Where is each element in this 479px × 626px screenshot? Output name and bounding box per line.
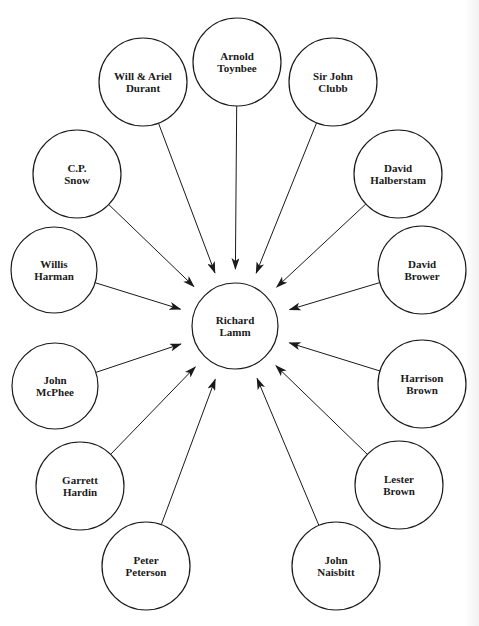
node-label: Hardin <box>63 486 97 498</box>
node-label: C.P. <box>67 162 86 174</box>
node-label: Harrison <box>401 372 444 384</box>
influence-diagram: ArnoldToynbeeWill & ArielDurantSir JohnC… <box>0 0 479 626</box>
node-label: Clubb <box>318 82 347 94</box>
node-clubb: Sir JohnClubb <box>289 38 377 126</box>
node-label: Durant <box>126 82 161 94</box>
node-label: John <box>43 374 66 386</box>
arrow-peterson-to-lamm <box>161 379 215 524</box>
arrow-harman-to-lamm <box>95 283 180 310</box>
node-label: Sir John <box>313 70 353 82</box>
arrow-durant-to-lamm <box>159 123 215 273</box>
node-naisbitt: JohnNaisbitt <box>292 522 380 610</box>
node-label: Naisbitt <box>317 566 355 578</box>
node-label: David <box>408 258 436 270</box>
node-brower: DavidBrower <box>378 226 466 314</box>
arrow-lbrown-to-lamm <box>276 366 368 455</box>
node-label: Richard <box>216 314 255 326</box>
arrow-naisbitt-to-lamm <box>257 379 319 526</box>
node-hbrown: HarrisonBrown <box>378 340 466 428</box>
arrow-clubb-to-lamm <box>256 123 316 273</box>
node-label: Garrett <box>62 474 98 486</box>
node-label: John <box>324 554 347 566</box>
node-label: Peter <box>133 554 158 566</box>
node-label: Snow <box>64 174 90 186</box>
node-harman: WillisHarman <box>11 227 97 313</box>
node-label: Brower <box>404 270 439 282</box>
node-label: Arnold <box>220 50 254 62</box>
arrow-halberstam-to-lamm <box>277 204 366 287</box>
node-peterson: PeterPeterson <box>102 522 190 610</box>
node-lbrown: LesterBrown <box>355 441 443 529</box>
node-label: Brown <box>383 485 415 497</box>
arrow-hardin-to-lamm <box>111 367 196 455</box>
nodes-layer: ArnoldToynbeeWill & ArielDurantSir JohnC… <box>11 18 466 610</box>
arrow-hbrown-to-lamm <box>289 343 380 371</box>
node-label: Peterson <box>126 566 167 578</box>
node-label: Toynbee <box>217 62 256 74</box>
node-snow: C.P.Snow <box>33 130 121 218</box>
node-label: David <box>384 162 412 174</box>
arrow-snow-to-lamm <box>109 205 194 287</box>
node-label: McPhee <box>36 386 74 398</box>
arrow-mcphee-to-lamm <box>96 344 181 372</box>
node-label: Will & Ariel <box>114 70 172 82</box>
node-mcphee: JohnMcPhee <box>12 343 98 429</box>
node-halberstam: DavidHalberstam <box>354 130 442 218</box>
node-durant: Will & ArielDurant <box>99 38 187 126</box>
arrow-brower-to-lamm <box>290 283 380 310</box>
node-toynbee: ArnoldToynbee <box>193 18 281 106</box>
arrow-toynbee-to-lamm <box>235 106 236 269</box>
center-node: RichardLamm <box>192 283 278 369</box>
node-label: Brown <box>406 384 438 396</box>
node-label: Harman <box>34 270 74 282</box>
node-label: Lamm <box>219 326 250 338</box>
node-label: Lester <box>384 473 414 485</box>
node-label: Halberstam <box>370 174 426 186</box>
node-hardin: GarrettHardin <box>36 442 124 530</box>
node-label: Willis <box>40 258 68 270</box>
